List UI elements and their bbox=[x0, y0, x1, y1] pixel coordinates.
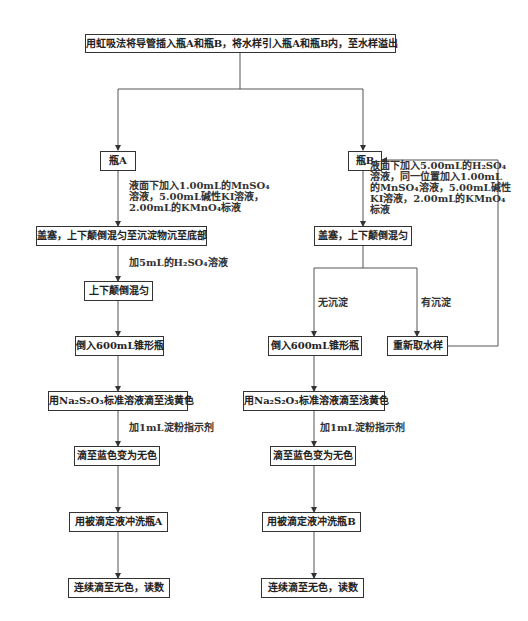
a-titrate-colorless-box: 滴至蓝色变为无色 bbox=[74, 446, 160, 466]
start-step-box: 用虹吸法将导管插入瓶A和瓶B，将水样引入瓶A和瓶B内，至水样溢出 bbox=[85, 34, 396, 53]
b-titrate-colorless-box: 滴至蓝色变为无色 bbox=[270, 446, 356, 466]
a-titrate-yellow-box: 用Na₂S₂O₃标准溶液滴至浅黄色 bbox=[48, 391, 188, 411]
a-add-starch-note: 加1mL淀粉指示剂 bbox=[129, 422, 214, 433]
bottle-b-reagent-line-5: 标液 bbox=[370, 204, 511, 215]
b-rinse-bottle-box: 用被滴定液冲洗瓶B bbox=[262, 512, 361, 532]
bottle-b-reagent-note: 液面下加入5.00mL的H₂SO₄ 溶液，同一位置加入1.00mL 的MnSO₄… bbox=[370, 160, 511, 215]
b-add-starch-note: 加1mL淀粉指示剂 bbox=[320, 422, 405, 433]
bottle-a-reagent-line-1: 液面下加入1.00mL的MnSO₄ bbox=[129, 180, 270, 191]
a-final-reading-box: 连续滴至无色，读数 bbox=[68, 578, 170, 598]
bottle-b-reagent-line-1: 液面下加入5.00mL的H₂SO₄ bbox=[370, 160, 511, 171]
a-stopper-mix-settle-box: 盖塞，上下颠倒混匀至沉淀物沉至底部 bbox=[36, 226, 207, 246]
bottle-a-reagent-line-2: 溶液，5.00mL碱性KI溶液， bbox=[129, 191, 270, 202]
a-add-sulfuric-note: 加5mL的H₂SO₄溶液 bbox=[129, 257, 228, 268]
bottle-b-reagent-line-2: 溶液，同一位置加入1.00mL bbox=[370, 171, 511, 182]
b-pour-flask-box: 倒入600mL锥形瓶 bbox=[268, 336, 362, 356]
precipitate-label: 有沉淀 bbox=[421, 297, 451, 308]
a-rinse-bottle-box: 用被滴定液冲洗瓶A bbox=[69, 512, 168, 532]
bottle-a-reagent-line-3: 2.00mL的KMnO₄标液 bbox=[129, 202, 270, 213]
a-invert-mix-box: 上下颠倒混匀 bbox=[84, 281, 153, 301]
b-stopper-mix-box: 盖塞，上下颠倒混匀 bbox=[314, 226, 412, 246]
bottle-b-reagent-line-4: KI溶液，2.00mL的KMnO₄ bbox=[370, 193, 511, 204]
b-titrate-yellow-box: 用Na₂S₂O₃标准溶液滴至浅黄色 bbox=[243, 391, 385, 411]
bottle-a-box: 瓶A bbox=[100, 151, 136, 171]
a-pour-flask-box: 倒入600mL锥形瓶 bbox=[75, 336, 164, 356]
bottle-b-reagent-line-3: 的MnSO₄溶液，5.00mL碱性 bbox=[370, 182, 511, 193]
resample-box: 重新取水样 bbox=[387, 336, 448, 356]
no-precipitate-label: 无沉淀 bbox=[318, 297, 348, 308]
b-final-reading-box: 连续滴至无色，读数 bbox=[261, 578, 364, 598]
bottle-a-reagent-note: 液面下加入1.00mL的MnSO₄ 溶液，5.00mL碱性KI溶液， 2.00m… bbox=[129, 180, 270, 213]
